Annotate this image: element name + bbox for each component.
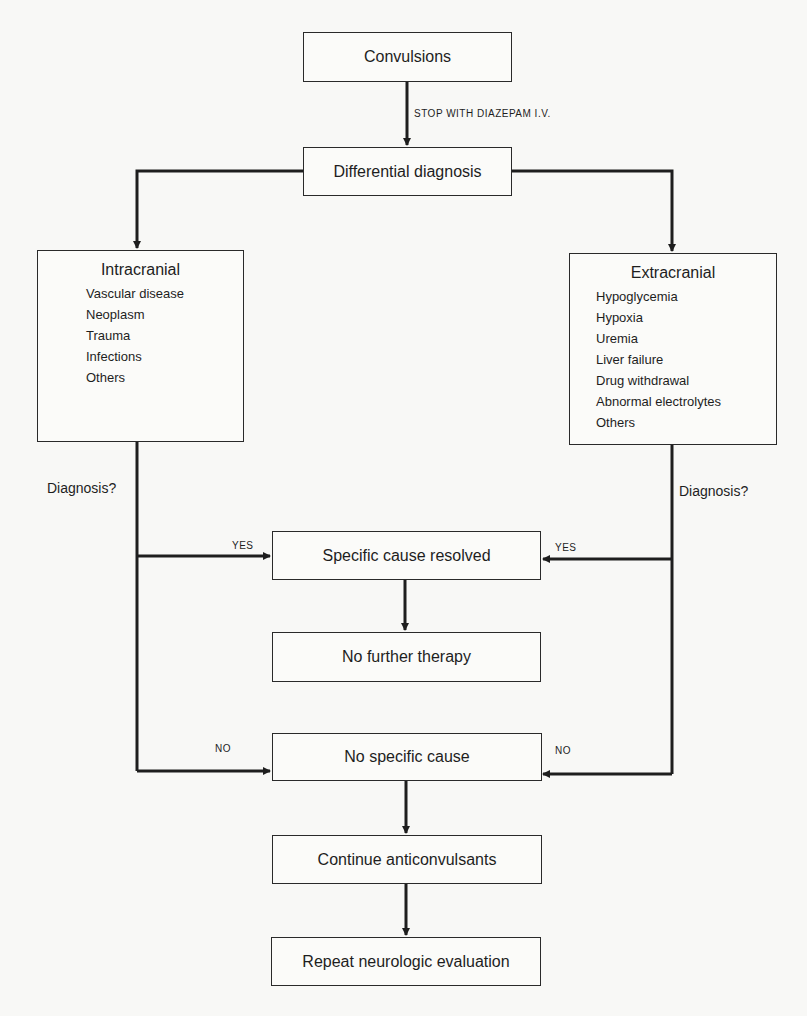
intracranial-item: Others bbox=[86, 367, 243, 388]
label-diagnosis-right: Diagnosis? bbox=[679, 483, 748, 499]
node-no-specific-cause: No specific cause bbox=[272, 733, 542, 781]
node-repeat-neurologic-evaluation: Repeat neurologic evaluation bbox=[271, 937, 541, 986]
node-extracranial: Extracranial Hypoglycemia Hypoxia Uremia… bbox=[569, 253, 777, 445]
extracranial-item: Hypoxia bbox=[596, 307, 776, 328]
label-stop-diazepam: STOP WITH DIAZEPAM I.V. bbox=[414, 108, 551, 119]
node-label: No specific cause bbox=[344, 748, 469, 766]
intracranial-item: Neoplasm bbox=[86, 304, 243, 325]
label-no-left: NO bbox=[215, 743, 231, 754]
node-specific-cause-resolved: Specific cause resolved bbox=[272, 531, 541, 580]
node-label: Differential diagnosis bbox=[333, 163, 481, 181]
node-label: Convulsions bbox=[364, 48, 451, 66]
label-yes-right: YES bbox=[555, 542, 577, 553]
label-no-right: NO bbox=[555, 745, 571, 756]
intracranial-item: Trauma bbox=[86, 325, 243, 346]
label-diagnosis-left: Diagnosis? bbox=[47, 480, 116, 496]
extracranial-item: Abnormal electrolytes bbox=[596, 391, 776, 412]
node-differential-diagnosis: Differential diagnosis bbox=[303, 147, 512, 196]
node-label: Specific cause resolved bbox=[322, 547, 490, 565]
node-continue-anticonvulsants: Continue anticonvulsants bbox=[272, 835, 542, 884]
node-label: No further therapy bbox=[342, 648, 471, 666]
intracranial-item: Vascular disease bbox=[86, 283, 243, 304]
node-convulsions: Convulsions bbox=[303, 32, 512, 82]
node-label: Continue anticonvulsants bbox=[318, 851, 497, 869]
extracranial-item: Drug withdrawal bbox=[596, 370, 776, 391]
extracranial-item: Others bbox=[596, 412, 776, 433]
intracranial-title: Intracranial bbox=[38, 261, 243, 279]
intracranial-item: Infections bbox=[86, 346, 243, 367]
extracranial-title: Extracranial bbox=[570, 264, 776, 282]
node-label: Repeat neurologic evaluation bbox=[302, 953, 509, 971]
label-yes-left: YES bbox=[232, 540, 254, 551]
extracranial-item: Hypoglycemia bbox=[596, 286, 776, 307]
extracranial-item: Liver failure bbox=[596, 349, 776, 370]
node-no-further-therapy: No further therapy bbox=[272, 632, 541, 682]
node-intracranial: Intracranial Vascular disease Neoplasm T… bbox=[37, 250, 244, 442]
extracranial-item: Uremia bbox=[596, 328, 776, 349]
